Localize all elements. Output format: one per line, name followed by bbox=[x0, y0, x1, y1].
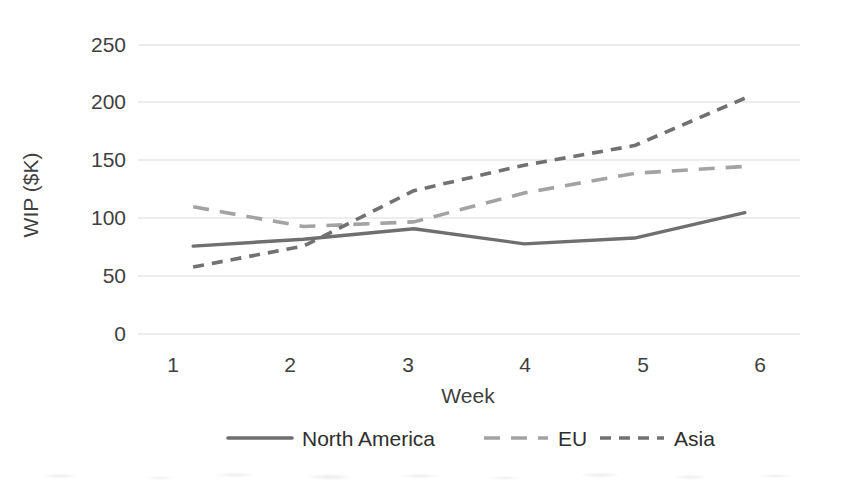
series-group bbox=[193, 98, 745, 267]
x-tick-label: 5 bbox=[637, 353, 649, 376]
x-tick-label: 4 bbox=[519, 353, 531, 376]
x-axis-title: Week bbox=[441, 384, 495, 407]
x-tick-label: 1 bbox=[167, 353, 179, 376]
y-tick-label: 0 bbox=[114, 322, 126, 345]
legend-label-eu[interactable]: EU bbox=[558, 427, 587, 450]
y-axis-ticks: 250 200 150 100 50 0 bbox=[91, 33, 126, 345]
y-tick-label: 100 bbox=[91, 206, 126, 229]
x-axis-ticks: 1 2 3 4 5 6 bbox=[167, 353, 766, 376]
y-tick-label: 250 bbox=[91, 33, 126, 56]
x-tick-label: 2 bbox=[284, 353, 296, 376]
chart-svg: 250 200 150 100 50 0 1 2 3 4 5 6 WIP ($K… bbox=[0, 0, 842, 488]
legend-label-north-america[interactable]: North America bbox=[302, 427, 435, 450]
y-tick-label: 50 bbox=[103, 264, 126, 287]
y-tick-label: 200 bbox=[91, 90, 126, 113]
legend: North America EU Asia bbox=[228, 427, 715, 450]
line-chart: 250 200 150 100 50 0 1 2 3 4 5 6 WIP ($K… bbox=[0, 0, 842, 488]
y-axis-title: WIP ($K) bbox=[19, 153, 42, 238]
x-tick-label: 3 bbox=[402, 353, 414, 376]
legend-label-asia[interactable]: Asia bbox=[674, 427, 715, 450]
y-tick-label: 150 bbox=[91, 148, 126, 171]
gridlines bbox=[138, 45, 800, 334]
x-tick-label: 6 bbox=[754, 353, 766, 376]
